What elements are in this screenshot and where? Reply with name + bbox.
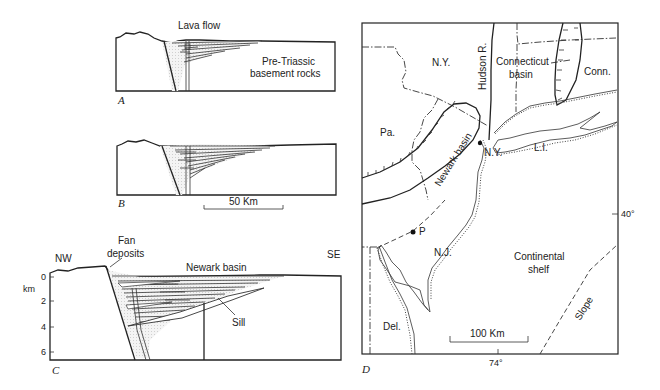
lon-74-label: 74° <box>489 358 503 368</box>
hudson-river-label: Hudson R. <box>477 43 488 90</box>
depth-tick-4: 4 <box>41 322 46 332</box>
delaware-shore <box>379 246 415 354</box>
ny-state-label: N.Y. <box>432 57 450 68</box>
lat-40-label: 40° <box>621 209 635 219</box>
nj-coast-dots <box>431 140 487 300</box>
se-label: SE <box>327 249 341 260</box>
ny-ct-border <box>517 23 616 44</box>
pa-label: Pa. <box>380 127 395 138</box>
slope-label: Slope <box>572 294 595 322</box>
shelf-label-line2: shelf <box>528 264 549 275</box>
conn-label: Conn. <box>584 66 611 77</box>
p-point-label: P <box>419 226 426 237</box>
depth-tick-0: 0 <box>41 272 46 282</box>
p-point-marker <box>411 230 416 235</box>
scale-bar-50km-label: 50 Km <box>229 196 258 207</box>
sill-label: Sill <box>232 317 245 328</box>
li-label: L.I. <box>534 142 548 153</box>
newark-basin-hachures <box>368 101 455 176</box>
panel-label-a: A <box>117 94 125 106</box>
cross-section-b: B 50 Km <box>117 140 336 209</box>
panel-label-c: C <box>52 364 60 376</box>
hudson-river <box>489 23 494 140</box>
depth-tick-6: 6 <box>41 347 46 357</box>
map-d: 40° 74° 100 Km N.Y. Pa. N.J. Del. Conn. … <box>361 23 635 375</box>
shelf-label-line1: Continental <box>514 251 565 262</box>
ct-basin-divider <box>551 60 570 63</box>
fan-label-line1: Fan <box>118 235 135 246</box>
panel-label-b: B <box>118 197 125 209</box>
nw-label: NW <box>55 253 72 264</box>
transect-line <box>377 200 445 248</box>
ct-basin-label-line2: basin <box>509 69 533 80</box>
nj-label: N.J. <box>434 247 452 258</box>
fan-label-line2: deposits <box>107 248 144 259</box>
panel-label-d: D <box>361 363 370 375</box>
newark-basin-label: Newark basin <box>186 262 247 273</box>
long-island <box>493 112 617 153</box>
scale-bar-100km: 100 Km <box>450 328 528 342</box>
connecticut-basin <box>555 23 582 105</box>
nyc-point-marker <box>478 141 482 145</box>
fan-leader-line <box>110 258 122 267</box>
basement-label-line1: Pre-Triassic <box>262 56 315 67</box>
basement-label-line2: basement rocks <box>250 68 321 79</box>
scale-bar-100km-label: 100 Km <box>470 328 504 339</box>
nyc-label: N.Y. <box>484 147 502 158</box>
newark-basin-map-label: Newark basin <box>432 131 473 188</box>
ny-pa-border <box>362 47 488 126</box>
cross-section-c: Fan deposits NW SE Newark basin Sill 0 k… <box>23 235 341 376</box>
del-label: Del. <box>383 321 401 332</box>
pa-de-border <box>362 247 377 354</box>
nj-coast <box>428 140 484 312</box>
lava-flow-label: Lava flow <box>178 20 221 31</box>
figure-canvas: Lava flow Pre-Triassic basement rocks A … <box>0 0 660 390</box>
basin-fill-a <box>162 41 262 91</box>
depth-unit-label: km <box>23 284 35 294</box>
depth-tick-2: 2 <box>41 296 46 306</box>
scale-bar-50km: 50 Km <box>204 196 283 209</box>
cross-section-a: Lava flow Pre-Triassic basement rocks A <box>116 20 335 106</box>
ct-basin-label-line1: Connecticut <box>496 56 549 67</box>
